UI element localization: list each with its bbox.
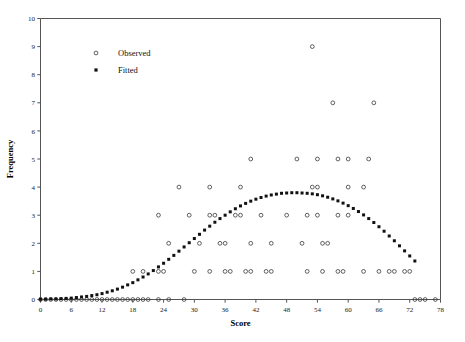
fitted-point	[239, 204, 242, 207]
observed-point	[403, 270, 407, 274]
fitted-point	[265, 195, 268, 198]
series-fitted	[39, 191, 416, 300]
fitted-point	[193, 237, 196, 240]
fitted-point	[198, 233, 201, 236]
x-axis: 06121824303642485460667278	[39, 300, 445, 314]
fitted-point	[121, 286, 124, 289]
fitted-point	[213, 221, 216, 224]
observed-point	[305, 270, 309, 274]
fitted-point	[203, 229, 206, 232]
fitted-point	[413, 260, 416, 263]
fitted-point	[306, 192, 309, 195]
observed-point	[249, 270, 253, 274]
fitted-point	[331, 197, 334, 200]
fitted-point	[372, 221, 375, 224]
y-axis-title: Frequency	[5, 139, 15, 178]
fitted-point	[367, 217, 370, 220]
observed-point	[310, 185, 314, 189]
observed-point	[316, 157, 320, 161]
y-tick-label: 8	[32, 71, 36, 79]
fitted-point	[290, 191, 293, 194]
observed-point	[269, 241, 273, 245]
fitted-point	[342, 202, 345, 205]
fitted-point	[260, 196, 263, 199]
observed-point	[387, 270, 391, 274]
observed-point	[228, 270, 232, 274]
fitted-point	[254, 198, 257, 201]
fitted-point	[95, 293, 98, 296]
observed-point	[326, 241, 330, 245]
fitted-point	[244, 202, 247, 205]
fitted-point	[49, 297, 52, 300]
y-tick-label: 10	[28, 15, 36, 23]
chart-container: 01234567891006121824303642485460667278Sc…	[0, 0, 465, 342]
fitted-point	[218, 217, 221, 220]
x-tick-label: 18	[129, 306, 137, 314]
observed-point	[269, 270, 273, 274]
fitted-point	[336, 199, 339, 202]
x-tick-label: 72	[406, 306, 414, 314]
observed-point	[336, 213, 340, 217]
observed-point	[162, 270, 166, 274]
fitted-point	[85, 295, 88, 298]
observed-point	[336, 270, 340, 274]
y-tick-label: 2	[32, 240, 36, 248]
fitted-point	[321, 194, 324, 197]
observed-point	[223, 241, 227, 245]
observed-point	[321, 270, 325, 274]
fitted-point	[408, 254, 411, 257]
fitted-point	[39, 298, 42, 301]
observed-point	[316, 213, 320, 217]
fitted-point	[224, 214, 227, 217]
false	[94, 68, 97, 71]
y-tick-label: 0	[32, 296, 36, 304]
fitted-point	[131, 281, 134, 284]
x-tick-label: 0	[39, 306, 43, 314]
observed-point	[249, 157, 253, 161]
x-tick-label: 60	[345, 306, 353, 314]
fitted-point	[152, 269, 155, 272]
observed-point	[346, 157, 350, 161]
plot-frame	[41, 19, 441, 300]
fitted-point	[44, 298, 47, 301]
fitted-point	[90, 294, 93, 297]
x-tick-label: 42	[252, 306, 260, 314]
fitted-point	[208, 225, 211, 228]
x-tick-label: 6	[70, 306, 74, 314]
false	[94, 51, 98, 55]
observed-point	[295, 157, 299, 161]
fitted-point	[111, 289, 114, 292]
y-tick-label: 6	[32, 128, 36, 136]
observed-point	[310, 45, 314, 49]
fitted-point	[229, 210, 232, 213]
observed-point	[218, 241, 222, 245]
fitted-point	[172, 254, 175, 257]
observed-point	[346, 213, 350, 217]
fitted-point	[295, 191, 298, 194]
fitted-point	[388, 234, 391, 237]
observed-point	[141, 270, 145, 274]
fitted-point	[54, 297, 57, 300]
fitted-point	[234, 207, 237, 210]
x-tick-label: 36	[222, 306, 230, 314]
fitted-point	[249, 200, 252, 203]
observed-point	[249, 241, 253, 245]
legend-label-fitted: Fitted	[118, 65, 139, 75]
observed-point	[131, 270, 135, 274]
observed-point	[187, 213, 191, 217]
y-tick-label: 1	[32, 268, 36, 276]
fitted-point	[142, 276, 145, 279]
observed-point	[177, 185, 181, 189]
observed-point	[367, 157, 371, 161]
x-tick-label: 78	[437, 306, 445, 314]
fitted-point	[352, 207, 355, 210]
fitted-point	[188, 241, 191, 244]
fitted-point	[126, 283, 129, 286]
observed-point	[208, 270, 212, 274]
y-axis: 012345678910	[28, 15, 41, 304]
observed-point	[321, 241, 325, 245]
observed-point	[372, 101, 376, 105]
fitted-point	[147, 272, 150, 275]
y-tick-label: 7	[32, 99, 36, 107]
y-tick-label: 3	[32, 212, 36, 220]
